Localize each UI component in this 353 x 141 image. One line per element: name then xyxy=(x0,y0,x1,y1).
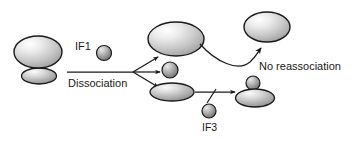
diagram-canvas: IF1 Dissociation No reassociation IF3 xyxy=(0,0,353,141)
if3-bound-sphere-shape xyxy=(246,76,260,90)
if3-feed-tick xyxy=(207,89,216,103)
small-subunit-30s-shape xyxy=(22,68,57,84)
branch-arrow-to-50s xyxy=(133,57,158,72)
no-reassociation-arrow xyxy=(200,44,261,66)
if1-sphere-shape xyxy=(97,46,112,61)
dissociated-subunits-group xyxy=(148,22,204,101)
no-reassociation-label: No reassociation xyxy=(259,60,341,72)
ribosome-dissociation-diagram: IF1 Dissociation No reassociation IF3 xyxy=(0,0,353,141)
if3-binding-arrow-group xyxy=(195,89,235,103)
branch-arrow-to-30s xyxy=(133,72,158,87)
if1-released-sphere-shape xyxy=(162,62,178,78)
if1-free-factor xyxy=(97,46,112,61)
free-50s-final-shape xyxy=(244,12,290,42)
large-subunit-50s-shape xyxy=(14,36,62,68)
if3-label: IF3 xyxy=(202,121,217,133)
ribosome-70s-complex xyxy=(14,36,62,84)
dissociated-30s-shape xyxy=(150,83,194,101)
if3-sphere-shape xyxy=(202,104,216,118)
dissociation-label: Dissociation xyxy=(68,77,127,89)
if1-label: IF1 xyxy=(75,40,91,52)
30s-if3-complex xyxy=(236,76,275,107)
30s-bound-subunit-shape xyxy=(236,89,275,107)
dissociated-50s-shape xyxy=(148,22,204,56)
